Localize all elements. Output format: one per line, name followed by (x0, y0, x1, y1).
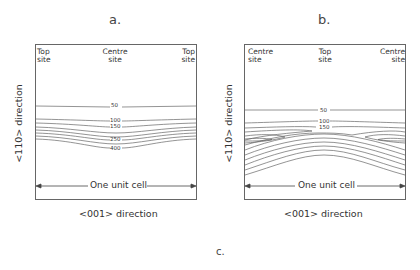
panel-a-xlabel: <001> direction (79, 208, 158, 219)
panel-c-label: c. (216, 246, 225, 257)
panel-b-contour-50: 50 (320, 107, 327, 113)
panel-b-xlabel: <001> direction (284, 208, 363, 219)
panel-b-contour-150: 150 (319, 124, 330, 130)
panel-b-unit-cell-label: One unit cell (298, 180, 355, 190)
panel-a-contour-250: 250 (110, 136, 121, 142)
panel-a-contour-50: 50 (111, 102, 118, 108)
panel-a-contour-150: 150 (110, 123, 121, 129)
panel-a-contour-400: 400 (110, 145, 121, 151)
contour-diagram (0, 0, 420, 270)
panel-a-unit-cell-label: One unit cell (90, 180, 147, 190)
